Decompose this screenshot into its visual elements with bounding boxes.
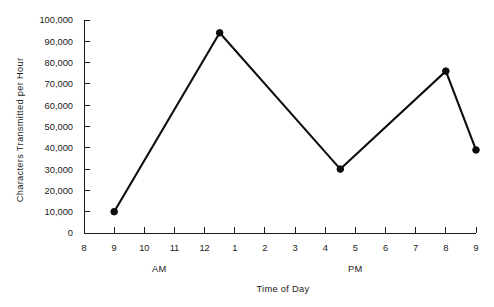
x-axis-tick-label: 4 xyxy=(323,243,328,253)
y-axis-title: Characters Transmitted per Hour xyxy=(15,58,25,203)
x-axis-tick-label: 11 xyxy=(170,243,180,253)
y-axis-tick-label: 100,000 xyxy=(39,15,73,25)
x-axis-tick-label: 5 xyxy=(353,243,358,253)
x-axis-tick-label-group: 89101112123456789 xyxy=(81,243,478,253)
x-axis-tick-label: 6 xyxy=(383,243,388,253)
x-axis-tick-label: 7 xyxy=(413,243,418,253)
y-axis-tick-label: 80,000 xyxy=(45,58,73,68)
x-axis-tick-label: 9 xyxy=(112,243,117,253)
meridiem-label-am: AM xyxy=(152,264,167,274)
data-series-line xyxy=(114,33,476,212)
x-axis-title: Time of Day xyxy=(256,284,309,294)
x-axis-tick-label: 12 xyxy=(199,243,209,253)
x-axis-tick-mark-group xyxy=(84,227,476,233)
x-axis-tick-label: 3 xyxy=(292,243,297,253)
y-axis-tick-mark-group xyxy=(84,20,90,233)
y-axis-tick-label: 0 xyxy=(68,228,73,238)
y-axis-tick-label: 60,000 xyxy=(45,101,73,111)
line-chart-figure: 010,00020,00030,00040,00050,00060,00070,… xyxy=(0,0,494,307)
data-point-marker xyxy=(216,29,223,36)
x-axis-tick-label: 8 xyxy=(81,243,86,253)
y-axis-tick-label: 90,000 xyxy=(45,37,73,47)
data-point-marker xyxy=(337,166,344,173)
x-axis-tick-label: 1 xyxy=(232,243,237,253)
x-axis-tick-label: 9 xyxy=(473,243,478,253)
meridiem-label-group: AMPM xyxy=(152,264,363,274)
y-axis-tick-label: 20,000 xyxy=(45,186,73,196)
data-point-marker xyxy=(443,68,450,75)
y-axis-tick-label: 10,000 xyxy=(45,207,73,217)
y-axis-tick-label: 30,000 xyxy=(45,165,73,175)
y-axis-tick-label: 40,000 xyxy=(45,143,73,153)
data-point-marker xyxy=(473,147,480,154)
meridiem-label-pm: PM xyxy=(348,264,363,274)
chart-canvas: 010,00020,00030,00040,00050,00060,00070,… xyxy=(0,0,494,307)
y-axis-tick-label: 50,000 xyxy=(45,122,73,132)
y-axis-tick-label-group: 010,00020,00030,00040,00050,00060,00070,… xyxy=(39,15,73,238)
x-axis-tick-label: 10 xyxy=(139,243,149,253)
y-axis-tick-label: 70,000 xyxy=(45,79,73,89)
x-axis-tick-label: 2 xyxy=(262,243,267,253)
data-point-marker xyxy=(111,208,118,215)
x-axis-tick-label: 8 xyxy=(443,243,448,253)
